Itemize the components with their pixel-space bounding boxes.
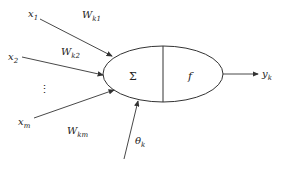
weight-label-1: Wk1 (82, 9, 101, 23)
weight-label-m: Wkm (67, 125, 89, 139)
input-label-1: x1 (28, 8, 38, 22)
summation-symbol: Σ (129, 70, 137, 83)
input-label-m: xm (18, 116, 31, 130)
input-arrow-1 (40, 19, 112, 56)
input-arrow-2 (22, 57, 103, 75)
output-label: yk (261, 68, 272, 82)
neuron-diagram: x1 x2 ⋮ xm Wk1 Wk2 Wkm Σ f θk yk (0, 0, 281, 170)
input-label-2: x2 (8, 51, 19, 65)
ellipsis-dots: ⋮ (39, 83, 50, 96)
neuron-svg: x1 x2 ⋮ xm Wk1 Wk2 Wkm Σ f θk yk (0, 0, 281, 170)
bias-label: θk (135, 135, 145, 149)
weight-label-2: Wk2 (61, 46, 81, 60)
activation-function-label: f (187, 70, 194, 83)
bias-arrow (124, 101, 138, 159)
